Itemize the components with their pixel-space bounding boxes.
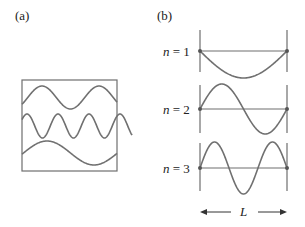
equals-sign: = xyxy=(170,102,184,117)
right-node-dot xyxy=(285,166,289,170)
length-label: L xyxy=(240,205,247,218)
mode-label-n2: n = 2 xyxy=(163,103,190,116)
top-wave xyxy=(22,86,117,109)
left-arrowhead-icon xyxy=(200,209,207,215)
mode-label-n3: n = 3 xyxy=(163,162,190,175)
panel-a-waves-in-box xyxy=(22,80,132,171)
cavity-box xyxy=(22,80,117,171)
standing-waves-diagram xyxy=(0,0,305,227)
right-node-dot xyxy=(285,49,289,53)
mode-n2 xyxy=(198,84,289,134)
left-node-dot xyxy=(198,107,202,111)
mode-n1 xyxy=(198,30,289,78)
n-value: 3 xyxy=(183,161,190,176)
equals-sign: = xyxy=(170,161,184,176)
left-node-dot xyxy=(198,166,202,170)
right-node-dot xyxy=(285,107,289,111)
n-value: 1 xyxy=(183,44,190,59)
equals-sign: = xyxy=(170,44,184,59)
n-value: 2 xyxy=(183,102,190,117)
left-node-dot xyxy=(198,49,202,53)
panel-b-standing-modes xyxy=(198,30,289,215)
right-arrowhead-icon xyxy=(280,209,287,215)
middle-wave xyxy=(22,114,132,138)
bottom-wave xyxy=(22,141,117,165)
mode-label-n1: n = 1 xyxy=(163,45,190,58)
mode-n3 xyxy=(198,142,289,194)
standing-wave xyxy=(200,51,287,78)
